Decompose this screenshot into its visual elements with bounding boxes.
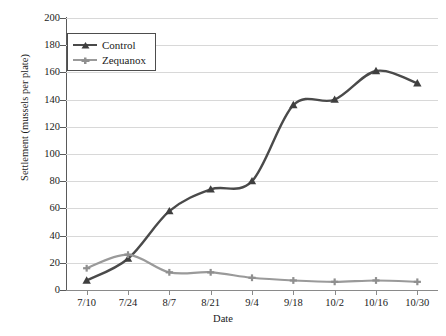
triangle-marker-icon: [81, 41, 90, 50]
x-axis-tick-label: 9/4: [229, 297, 275, 309]
data-point-marker: [414, 278, 421, 285]
x-axis-tick: [87, 290, 88, 295]
y-axis-tick-label: 160: [32, 67, 60, 78]
y-axis-tick-label: 180: [32, 40, 60, 51]
y-axis-tick-label: 140: [32, 95, 60, 106]
x-axis-tick-label: 8/21: [188, 297, 234, 309]
x-axis-tick: [293, 290, 294, 295]
y-axis-tick-label: 0: [32, 285, 60, 296]
x-axis-tick-label: 10/30: [394, 297, 440, 309]
data-point-marker: [331, 278, 338, 285]
legend-item-control[interactable]: Control: [73, 37, 146, 52]
y-axis-tick-label: 60: [32, 203, 60, 214]
y-axis-tick: [60, 263, 66, 264]
legend-swatch-zequanox: [73, 54, 97, 66]
x-axis-title: Date: [0, 313, 446, 324]
y-axis-tick: [60, 181, 66, 182]
series-line: [87, 71, 418, 281]
x-axis-tick: [335, 290, 336, 295]
y-axis-tick: [60, 236, 66, 237]
x-axis-tick-label: 10/2: [312, 297, 358, 309]
y-axis-tick: [60, 208, 66, 209]
y-axis-tick-label: 40: [32, 231, 60, 242]
x-axis-tick: [169, 290, 170, 295]
series-zequanox: [83, 251, 421, 285]
x-axis-tick: [252, 290, 253, 295]
x-axis-tick-label: 10/16: [353, 297, 399, 309]
legend-label-zequanox: Zequanox: [102, 54, 146, 66]
line-chart: 020406080100120140160180200 Settlement (…: [0, 0, 446, 336]
y-axis-tick-label: 20: [32, 258, 60, 269]
y-axis-tick-label: 100: [32, 149, 60, 160]
y-axis-tick: [60, 18, 66, 19]
x-axis-tick: [211, 290, 212, 295]
x-axis-tick-label: 8/7: [146, 297, 192, 309]
y-axis-tick: [60, 154, 66, 155]
y-axis-tick-labels: 020406080100120140160180200: [28, 0, 60, 336]
x-axis-tick-label: 9/18: [270, 297, 316, 309]
x-axis-tick-label: 7/10: [64, 297, 110, 309]
data-point-marker: [83, 265, 90, 272]
legend: Control Zequanox: [67, 33, 156, 71]
y-axis-tick: [60, 72, 66, 73]
x-axis-tick: [417, 290, 418, 295]
y-axis-tick-label: 120: [32, 122, 60, 133]
data-point-marker: [290, 277, 297, 284]
y-axis-tick: [60, 127, 66, 128]
legend-item-zequanox[interactable]: Zequanox: [73, 52, 146, 67]
data-point-marker: [166, 269, 173, 276]
data-point-marker: [372, 277, 379, 284]
y-axis-tick-label: 200: [32, 13, 60, 24]
x-axis-tick: [128, 290, 129, 295]
legend-label-control: Control: [102, 39, 136, 51]
data-point-marker: [207, 269, 214, 276]
plus-marker-icon: [81, 56, 90, 65]
legend-swatch-control: [73, 39, 97, 51]
series-control: [82, 67, 421, 284]
y-axis-title: Settlement (mussels per plate): [19, 48, 30, 188]
y-axis-tick-label: 80: [32, 176, 60, 187]
data-point-marker: [248, 274, 255, 281]
y-axis-tick: [60, 100, 66, 101]
y-axis-tick: [60, 290, 66, 291]
x-axis-tick: [376, 290, 377, 295]
x-axis-tick-label: 7/24: [105, 297, 151, 309]
y-axis-tick: [60, 45, 66, 46]
